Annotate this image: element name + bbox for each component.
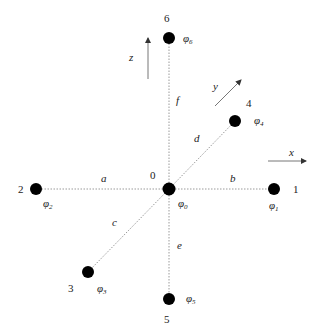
- phi-label-2: φ2: [43, 197, 53, 211]
- edge-label-f: f: [176, 94, 181, 106]
- edge-label-e: e: [177, 239, 182, 251]
- node-1: [268, 183, 280, 195]
- node-label-0: 0: [150, 169, 156, 181]
- edge-c: [88, 189, 169, 272]
- edge-label-d: d: [194, 132, 200, 144]
- axis-label-x: x: [288, 146, 294, 158]
- node-2: [30, 183, 42, 195]
- node-5: [163, 293, 175, 305]
- phi-label-1: φ1: [269, 199, 279, 213]
- phi-label-3: φ3: [97, 282, 107, 296]
- node-label-2: 2: [18, 183, 24, 195]
- node-label-1: 1: [293, 183, 299, 195]
- axis-label-z: z: [128, 51, 134, 63]
- axis-label-y: y: [212, 80, 218, 92]
- stencil-diagram: 0 1 2 3 4 5 6 φ0 φ1 φ2 φ3 φ4 φ5 φ6 a b c…: [0, 0, 325, 336]
- axis-arrows: [148, 38, 306, 161]
- node-label-5: 5: [164, 313, 170, 325]
- node-label-6: 6: [164, 12, 170, 24]
- phi-label-0: φ0: [178, 197, 188, 211]
- node-label-3: 3: [68, 282, 74, 294]
- edge-label-c: c: [112, 216, 117, 228]
- edge-label-a: a: [101, 172, 107, 184]
- y-axis-arrow-icon: [215, 80, 241, 106]
- phi-label-4: φ4: [254, 114, 264, 128]
- phi-label-5: φ5: [186, 292, 196, 306]
- node-label-4: 4: [246, 97, 252, 109]
- node-4: [229, 115, 241, 127]
- node-0: [163, 183, 176, 196]
- phi-label-6: φ6: [183, 32, 193, 46]
- node-3: [82, 266, 94, 278]
- node-6: [163, 32, 175, 44]
- edge-d: [169, 121, 235, 189]
- edge-label-b: b: [230, 172, 236, 184]
